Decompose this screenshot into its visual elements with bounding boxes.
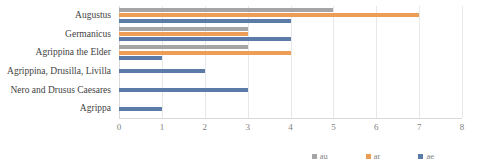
bar-group [119,62,462,81]
legend-item-ae[interactable]: ae [418,152,434,161]
y-axis-label: Germanicus [65,25,111,44]
bar-ae [119,37,291,41]
x-axis-tick: 8 [460,120,465,134]
bar-ae [119,69,205,73]
y-axis-label: Agrippina the Elder [36,43,111,62]
x-axis-tick: 5 [331,120,336,134]
legend-label: ar [374,152,381,161]
bar-ar [119,13,419,17]
bar-ae [119,88,248,92]
bar-chart: AugustusGermanicusAgrippina the ElderAgr… [0,0,480,168]
bar-group [119,99,462,118]
y-axis-label: Agrippina, Drusilla, Livilla [7,62,111,81]
bar-au [119,45,248,49]
bar-ae [119,56,162,60]
y-axis-label: Agrippa [80,99,111,118]
bar-ar [119,51,291,55]
x-axis-tick: 7 [417,120,422,134]
legend-item-ar[interactable]: ar [366,152,381,161]
bar-ae [119,19,291,23]
bar-group [119,6,462,25]
bar-au [119,8,333,12]
legend-label: ae [426,152,434,161]
legend-swatch-icon [366,154,371,159]
bar-group [119,25,462,44]
y-axis-label: Nero and Drusus Caesares [10,81,111,100]
legend-swatch-icon [418,154,423,159]
x-axis-tick-labels: 012345678 [119,120,462,134]
x-axis-tick: 2 [203,120,208,134]
bar-ar [119,32,248,36]
gridline-8 [462,6,463,118]
legend-item-au[interactable]: au [312,152,328,161]
chart-legend: auarae [0,148,472,164]
y-axis-label: Augustus [75,6,111,25]
bar-group [119,43,462,62]
x-axis-line [119,118,462,119]
plot-area [119,6,462,118]
bar-ae [119,107,162,111]
legend-label: au [320,152,328,161]
x-axis-tick: 6 [374,120,379,134]
bar-rows [119,6,462,118]
x-axis-tick: 3 [245,120,250,134]
y-axis-labels: AugustusGermanicusAgrippina the ElderAgr… [0,6,115,118]
x-axis-tick: 4 [288,120,293,134]
x-axis-tick: 1 [160,120,165,134]
bar-au [119,27,248,31]
legend-swatch-icon [312,154,317,159]
bar-group [119,81,462,100]
x-axis-tick: 0 [117,120,122,134]
